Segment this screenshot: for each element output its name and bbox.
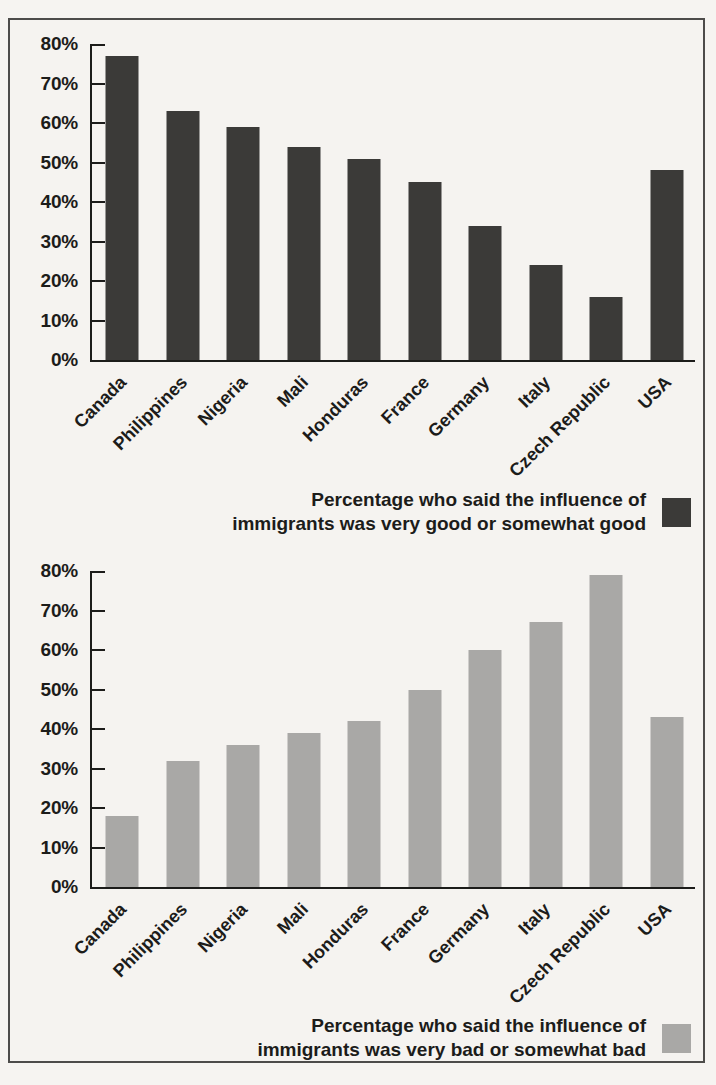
bar-slot — [334, 44, 395, 360]
legend-line-1: Percentage who said the influence of — [257, 1014, 646, 1038]
y-tick-mark — [92, 162, 105, 164]
y-tick-label: 40% — [14, 718, 78, 740]
bar-slot — [334, 571, 395, 887]
bar-philippines — [166, 111, 199, 360]
legend-good: Percentage who said the influence of imm… — [232, 488, 691, 536]
y-tick-mark — [92, 201, 105, 203]
bar-slot — [153, 44, 214, 360]
y-tick-label: 80% — [14, 560, 78, 582]
y-axis-labels: 0%10%20%30%40%50%60%70%80% — [14, 571, 78, 891]
bar-philippines — [166, 761, 199, 887]
x-category-label: Germany — [424, 899, 494, 969]
bar-italy — [529, 622, 562, 887]
bar-slot — [213, 571, 274, 887]
bar-slot — [153, 571, 214, 887]
y-tick-label: 40% — [14, 191, 78, 213]
y-tick-mark — [92, 122, 105, 124]
bar-canada — [106, 816, 139, 887]
chart-influence-good: 0%10%20%30%40%50%60%70%80% CanadaPhilipp… — [90, 44, 707, 494]
x-category-label: Canada — [70, 899, 131, 960]
x-category-label: Mali — [273, 372, 313, 412]
legend-line-1: Percentage who said the influence of — [232, 488, 646, 512]
legend-bad: Percentage who said the influence of imm… — [257, 1014, 691, 1062]
y-tick-mark — [92, 280, 105, 282]
x-axis-labels: CanadaPhilippinesNigeriaMaliHondurasFran… — [92, 893, 697, 1021]
x-category-label: France — [377, 372, 434, 429]
legend-label: Percentage who said the influence of imm… — [232, 488, 646, 536]
y-tick-mark — [92, 83, 105, 85]
bar-czech-republic — [590, 575, 623, 887]
y-tick-label: 0% — [14, 876, 78, 898]
bar-italy — [529, 265, 562, 360]
y-tick-mark — [92, 768, 105, 770]
bar-slot — [455, 44, 516, 360]
x-category-label: Canada — [70, 372, 131, 433]
x-category-label: France — [377, 899, 434, 956]
y-tick-label: 70% — [14, 600, 78, 622]
legend-line-2: immigrants was very bad or somewhat bad — [257, 1038, 646, 1062]
y-tick-mark — [92, 571, 105, 573]
bar-czech-republic — [590, 297, 623, 360]
bar-slot — [516, 44, 577, 360]
x-axis-line — [90, 887, 695, 889]
bar-slot — [576, 571, 637, 887]
bars-group — [92, 44, 697, 360]
bar-slot — [455, 571, 516, 887]
x-category-label: Mali — [273, 899, 313, 939]
y-tick-label: 70% — [14, 73, 78, 95]
bar-slot — [213, 44, 274, 360]
y-tick-label: 30% — [14, 231, 78, 253]
bar-slot — [637, 44, 698, 360]
legend-swatch-dark — [662, 498, 691, 527]
x-category-label: USA — [634, 372, 676, 414]
y-tick-label: 60% — [14, 639, 78, 661]
bars-group — [92, 571, 697, 887]
bar-slot — [516, 571, 577, 887]
x-axis-labels: CanadaPhilippinesNigeriaMaliHondurasFran… — [92, 366, 697, 494]
bar-slot — [395, 44, 456, 360]
y-tick-mark — [92, 44, 105, 46]
bar-slot — [395, 571, 456, 887]
y-tick-mark — [92, 649, 105, 651]
x-category-label: Nigeria — [194, 372, 252, 430]
bar-usa — [650, 717, 683, 887]
bar-germany — [469, 650, 502, 887]
bar-mali — [287, 147, 320, 360]
y-tick-label: 20% — [14, 797, 78, 819]
y-tick-label: 50% — [14, 679, 78, 701]
y-tick-mark — [92, 689, 105, 691]
x-category-label: Germany — [424, 372, 494, 442]
bar-france — [408, 182, 441, 360]
y-tick-mark — [92, 241, 105, 243]
legend-label: Percentage who said the influence of imm… — [257, 1014, 646, 1062]
plot-area — [90, 571, 697, 887]
y-tick-label: 10% — [14, 837, 78, 859]
y-tick-mark — [92, 847, 105, 849]
x-category-label: USA — [634, 899, 676, 941]
x-axis-line — [90, 360, 695, 362]
y-tick-mark — [92, 610, 105, 612]
x-category-label: Italy — [514, 372, 554, 412]
bar-germany — [469, 226, 502, 360]
x-category-label: Italy — [514, 899, 554, 939]
bar-slot — [274, 44, 335, 360]
y-tick-label: 30% — [14, 758, 78, 780]
bar-france — [408, 690, 441, 888]
y-tick-mark — [92, 807, 105, 809]
bar-slot — [576, 44, 637, 360]
figure-frame: 0%10%20%30%40%50%60%70%80% CanadaPhilipp… — [8, 18, 705, 1063]
chart-influence-bad: 0%10%20%30%40%50%60%70%80% CanadaPhilipp… — [90, 571, 707, 1021]
y-tick-label: 20% — [14, 270, 78, 292]
bar-honduras — [348, 721, 381, 887]
y-tick-label: 50% — [14, 152, 78, 174]
y-tick-label: 10% — [14, 310, 78, 332]
legend-line-2: immigrants was very good or somewhat goo… — [232, 512, 646, 536]
bar-usa — [650, 170, 683, 360]
y-tick-label: 0% — [14, 349, 78, 371]
x-category-label: Nigeria — [194, 899, 252, 957]
bar-slot — [274, 571, 335, 887]
plot-area — [90, 44, 697, 360]
bar-nigeria — [227, 127, 260, 360]
bar-honduras — [348, 159, 381, 360]
y-tick-label: 80% — [14, 33, 78, 55]
